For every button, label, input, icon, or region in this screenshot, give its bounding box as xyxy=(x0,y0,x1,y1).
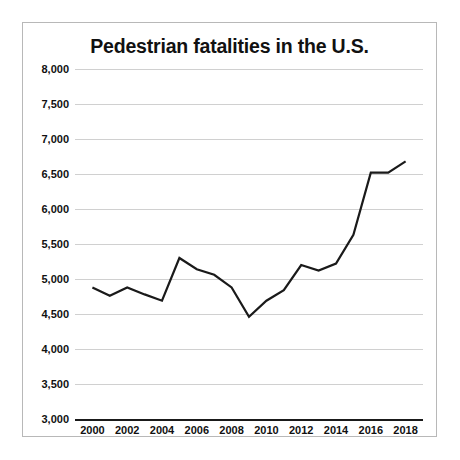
y-axis-tick-label: 3,500 xyxy=(41,378,69,390)
y-axis-tick-label: 5,000 xyxy=(41,273,69,285)
line-series-pedestrian-fatalities xyxy=(92,161,405,316)
x-axis-tick-label: 2008 xyxy=(219,424,243,436)
y-axis-tick-label: 4,500 xyxy=(41,308,69,320)
x-axis-tick-label: 2002 xyxy=(115,424,139,436)
x-axis-tick-label: 2014 xyxy=(324,424,348,436)
x-axis-line xyxy=(75,419,423,421)
chart-figure: Pedestrian fatalities in the U.S. 3,0003… xyxy=(22,22,437,437)
x-axis-tick-label: 2016 xyxy=(359,424,383,436)
plot-area: 3,0003,5004,0004,5005,0005,5006,0006,500… xyxy=(75,69,423,419)
x-axis-tick-label: 2012 xyxy=(289,424,313,436)
y-axis-tick-label: 6,500 xyxy=(41,168,69,180)
x-axis-tick-label: 2010 xyxy=(254,424,278,436)
y-axis-tick-label: 8,000 xyxy=(41,63,69,75)
y-axis-tick-label: 3,000 xyxy=(41,413,69,425)
data-series-layer xyxy=(75,69,423,419)
chart-title: Pedestrian fatalities in the U.S. xyxy=(23,35,436,58)
x-axis-tick-label: 2000 xyxy=(80,424,104,436)
x-axis-tick-label: 2006 xyxy=(185,424,209,436)
y-axis-tick-label: 5,500 xyxy=(41,238,69,250)
y-axis-tick-label: 7,500 xyxy=(41,98,69,110)
y-axis-tick-label: 7,000 xyxy=(41,133,69,145)
x-axis-tick-label: 2004 xyxy=(150,424,174,436)
x-axis-tick-label: 2018 xyxy=(393,424,417,436)
y-axis-tick-label: 6,000 xyxy=(41,203,69,215)
y-axis-tick-label: 4,000 xyxy=(41,343,69,355)
